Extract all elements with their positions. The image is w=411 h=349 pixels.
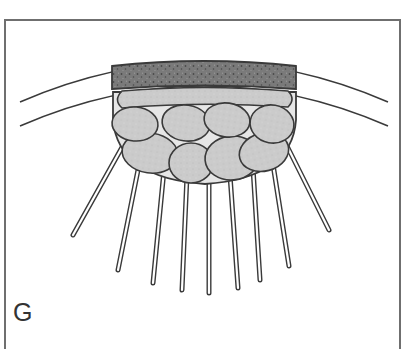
rod-4 [182,175,187,290]
rod-7 [253,168,260,280]
rod-9 [285,142,329,230]
rod-6 [230,175,238,288]
rod-2 [118,160,140,270]
rod-8 [272,158,289,266]
dark-band [112,61,296,89]
panel-label: G [13,300,32,325]
rod-3 [153,170,164,283]
rod-1 [73,142,125,235]
